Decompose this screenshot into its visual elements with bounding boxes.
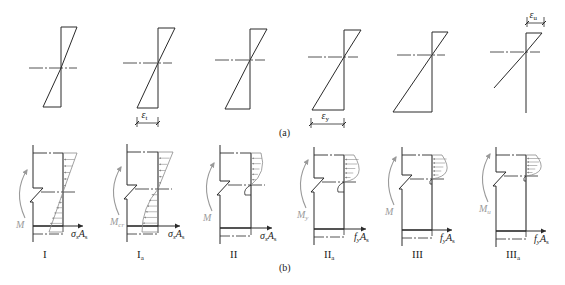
force-label-3: σsAs	[260, 231, 277, 243]
strain-diagram-1	[29, 27, 77, 107]
strain-dimension-t	[135, 117, 160, 127]
moment-arrow	[482, 154, 490, 202]
moment-label-6: Mu	[479, 204, 491, 216]
stage-label-3: II	[230, 249, 237, 262]
stage-label-6: IIIa	[506, 249, 520, 262]
moment-label-5: M	[385, 207, 393, 219]
force-label-2: σsAs	[168, 229, 185, 241]
strain-label-t: εt	[142, 110, 148, 122]
moment-arrow	[113, 167, 121, 215]
stress-diagram-6	[482, 147, 546, 247]
strain-diagram-4	[308, 30, 361, 110]
strain-label-y: εy	[322, 111, 329, 123]
strain-diagram-5	[393, 32, 448, 112]
panel-b-caption: (b)	[279, 263, 291, 273]
stage-label-1: I	[43, 249, 47, 262]
stage-label-5: III	[412, 249, 423, 262]
force-label-4: fyAs	[354, 232, 369, 244]
stress-diagrams	[19, 144, 546, 247]
moment-arrow	[206, 163, 214, 211]
panel-a-caption: (a)	[279, 128, 290, 138]
figure-canvas	[0, 0, 565, 285]
stage-label-4: IIa	[324, 249, 334, 262]
force-label-6: fyAs	[534, 234, 549, 246]
moment-label-2: Mcr	[110, 217, 124, 229]
strain-diagram-3	[215, 29, 267, 109]
strain-diagrams	[29, 17, 546, 128]
moment-arrow	[388, 157, 396, 205]
force-label-1: σsAs	[71, 229, 88, 241]
strain-label-u: εu	[530, 10, 537, 22]
stage-label-2: Ia	[137, 249, 144, 262]
strain-diagram-6	[490, 33, 542, 113]
moment-label-4: My	[297, 210, 308, 222]
force-label-5: fyAs	[440, 233, 455, 245]
moment-label-1: M	[16, 220, 24, 232]
moment-arrow	[19, 170, 27, 218]
moment-arrow	[300, 160, 308, 208]
strain-diagram-2	[123, 28, 175, 108]
moment-label-3: M	[203, 213, 211, 225]
